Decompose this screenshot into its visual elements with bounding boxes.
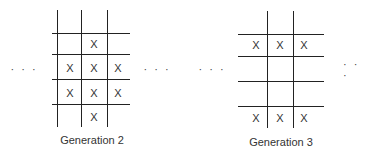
ellipsis-right: · · · <box>343 59 365 81</box>
cell-r2-c1: X <box>90 88 97 99</box>
grid-line-vertical <box>267 11 268 128</box>
caption-generation-3: Generation 3 <box>249 136 313 148</box>
cell-r3-c1: X <box>276 113 283 124</box>
grid-line-vertical <box>293 11 294 128</box>
cell-r2-c2: X <box>114 88 121 99</box>
grid-line-horizontal <box>238 106 324 107</box>
cell-r1-c1: X <box>90 63 97 74</box>
cell-r3-c0: X <box>252 113 259 124</box>
grid-line-vertical <box>81 10 82 127</box>
grid-line-horizontal <box>52 54 130 55</box>
cell-r2-c0: X <box>66 88 73 99</box>
grid-line-horizontal <box>238 34 324 35</box>
cell-r1-c2: X <box>114 63 121 74</box>
cell-r0-c0: X <box>252 40 259 51</box>
cell-r0-c1: X <box>90 39 97 50</box>
ellipsis-middle-right: · · · <box>198 64 225 75</box>
cell-r0-c1: X <box>276 40 283 51</box>
cell-r1-c0: X <box>66 63 73 74</box>
grid-line-horizontal <box>52 33 130 34</box>
cell-r3-c2: X <box>300 113 307 124</box>
cell-r3-c1: X <box>90 112 97 123</box>
grid-line-horizontal <box>52 104 130 105</box>
cell-r0-c2: X <box>300 40 307 51</box>
grid-line-vertical <box>57 10 58 127</box>
ellipsis-middle-left: · · · <box>143 64 170 75</box>
grid-line-horizontal <box>238 81 324 82</box>
ellipsis-left: · · · <box>10 64 37 75</box>
grid-line-horizontal <box>52 79 130 80</box>
caption-generation-2: Generation 2 <box>60 134 124 146</box>
grid-line-vertical <box>107 10 108 127</box>
grid-line-horizontal <box>238 56 324 57</box>
